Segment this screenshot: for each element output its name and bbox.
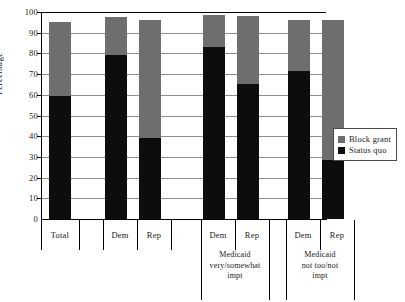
cell-divider-1: [41, 220, 42, 250]
group-label-line-3: impt: [201, 271, 269, 282]
group-label-line-3: impt: [286, 271, 354, 282]
cell-divider-3: [103, 220, 104, 250]
bar-segment-block-grant[interactable]: [49, 22, 71, 95]
gridline-80: [41, 53, 326, 54]
bar-segment-block-grant[interactable]: [203, 15, 225, 47]
y-tick-0: 0: [34, 215, 38, 224]
bar-segment-status-quo[interactable]: [139, 138, 161, 219]
bar-7-rep[interactable]: [322, 20, 344, 219]
gridline-40: [41, 136, 326, 137]
group-divider-2: [269, 250, 270, 300]
bar-6-dem[interactable]: [288, 20, 310, 219]
bar-segment-block-grant[interactable]: [139, 20, 161, 138]
cell-divider-7: [235, 220, 236, 250]
bar-segment-status-quo[interactable]: [203, 47, 225, 219]
bar-segment-status-quo[interactable]: [105, 55, 127, 219]
bar-segment-block-grant[interactable]: [105, 17, 127, 55]
category-label-rep-2: Rep: [235, 220, 269, 250]
legend: Block grant Status quo: [333, 128, 397, 161]
bar-2-dem[interactable]: [105, 17, 127, 219]
gridline-10: [41, 198, 326, 199]
plot-area: [41, 12, 326, 219]
gridline-20: [41, 178, 326, 179]
legend-label-block-grant: Block grant: [349, 134, 391, 144]
gridline-30: [41, 157, 326, 158]
group-divider-1: [201, 250, 202, 300]
gridline-100: [41, 12, 326, 13]
cell-divider-10: [320, 220, 321, 250]
gridline-50: [41, 116, 326, 117]
bar-4-dem[interactable]: [203, 15, 225, 219]
bar-segment-block-grant[interactable]: [288, 20, 310, 71]
stacked-bar-chart: Percentage 100 90 80 70 60 50 40 30 20 1…: [0, 0, 405, 302]
group-axis: Medicaid very/somewhat impt Medicaid not…: [41, 250, 327, 300]
cell-divider-4: [137, 220, 138, 250]
bar-segment-status-quo[interactable]: [237, 84, 259, 219]
group-label-medicaid-important: Medicaid very/somewhat impt: [201, 250, 269, 282]
category-label-dem-2: Dem: [201, 220, 235, 250]
y-axis-line: [41, 12, 42, 220]
legend-item-status-quo[interactable]: Status quo: [338, 145, 391, 155]
cell-divider-2: [79, 220, 80, 250]
group-divider-3: [286, 250, 287, 300]
category-label-dem-1: Dem: [103, 220, 137, 250]
legend-item-block-grant[interactable]: Block grant: [338, 134, 391, 144]
group-label-line-2: very/somewhat: [201, 261, 269, 272]
group-label-line-1: Medicaid: [201, 250, 269, 261]
y-axis-tick-labels: 100 90 80 70 60 50 40 30 20 10 0: [18, 12, 38, 219]
category-label-dem-3: Dem: [286, 220, 320, 250]
legend-swatch-icon-block-grant: [338, 136, 345, 143]
category-label-total: Total: [41, 220, 79, 250]
bar-segment-status-quo[interactable]: [322, 160, 344, 219]
bar-segment-status-quo[interactable]: [49, 96, 71, 219]
bar-5-rep[interactable]: [237, 16, 259, 219]
gridline-70: [41, 74, 326, 75]
y-axis-title: Percentage: [0, 53, 4, 95]
group-label-medicaid-not-important: Medicaid not too/not impt: [286, 250, 354, 282]
group-label-line-2: not too/not: [286, 261, 354, 272]
group-label-line-1: Medicaid: [286, 250, 354, 261]
gridline-90: [41, 33, 326, 34]
category-axis: Total Dem Rep Dem Rep Dem Rep: [41, 220, 327, 250]
legend-label-status-quo: Status quo: [349, 145, 387, 155]
category-label-rep-1: Rep: [137, 220, 171, 250]
bar-3-rep[interactable]: [139, 20, 161, 219]
bar-segment-status-quo[interactable]: [288, 71, 310, 219]
group-divider-4: [354, 250, 355, 300]
category-label-rep-3: Rep: [320, 220, 354, 250]
cell-divider-5: [171, 220, 172, 250]
bar-segment-block-grant[interactable]: [237, 16, 259, 84]
legend-swatch-icon-status-quo: [338, 147, 345, 154]
gridline-60: [41, 95, 326, 96]
y-tick-100: 100: [25, 8, 38, 17]
bar-1-total[interactable]: [49, 22, 71, 219]
